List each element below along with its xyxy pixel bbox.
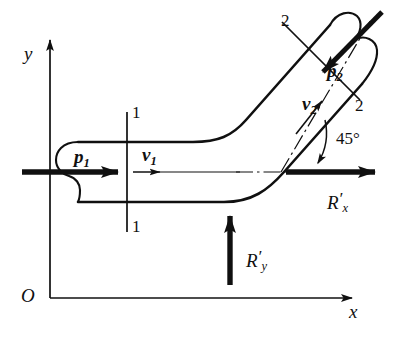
pipe-bend-diagram: y x O 1 1 2 2 p1 v1 p2 v2 45° R′x R′y bbox=[0, 0, 397, 338]
outlet-velocity-subscript: 2 bbox=[310, 103, 316, 117]
section-label-1-bottom: 1 bbox=[132, 218, 141, 235]
x-axis-label: x bbox=[349, 302, 357, 321]
pipe-wall-upper bbox=[78, 25, 330, 142]
inlet-pressure-symbol: p bbox=[74, 146, 84, 167]
reaction-rx-symbol: R bbox=[327, 192, 339, 213]
diagram-canvas bbox=[0, 0, 397, 338]
coordinate-axes bbox=[50, 40, 352, 298]
section-label-2-upper: 2 bbox=[281, 12, 290, 29]
outlet-cap-lower bbox=[354, 38, 377, 84]
reaction-ry-subscript: y bbox=[261, 259, 267, 273]
inlet-pressure-label: p1 bbox=[74, 147, 90, 169]
outlet-pressure-subscript: 2 bbox=[337, 70, 343, 84]
section-label-1-top: 1 bbox=[132, 104, 141, 121]
inlet-pressure-subscript: 1 bbox=[84, 156, 90, 170]
angle-label-45: 45° bbox=[336, 130, 360, 147]
inlet-velocity-subscript: 1 bbox=[150, 154, 156, 168]
outlet-pressure-label: p2 bbox=[327, 61, 343, 83]
y-axis-label: y bbox=[24, 44, 32, 63]
inlet-velocity-label: v1 bbox=[142, 145, 157, 167]
reaction-rx-subscript: x bbox=[342, 201, 348, 215]
outlet-pressure-symbol: p bbox=[327, 60, 337, 81]
reaction-ry-symbol: R bbox=[246, 250, 258, 271]
outlet-velocity-label: v2 bbox=[302, 94, 317, 116]
outlet-centerline bbox=[281, 18, 372, 172]
origin-label: O bbox=[21, 286, 35, 305]
reaction-ry-label: R′y bbox=[246, 248, 267, 273]
reaction-rx-label: R′x bbox=[327, 190, 348, 215]
section-label-2-lower: 2 bbox=[355, 97, 364, 114]
